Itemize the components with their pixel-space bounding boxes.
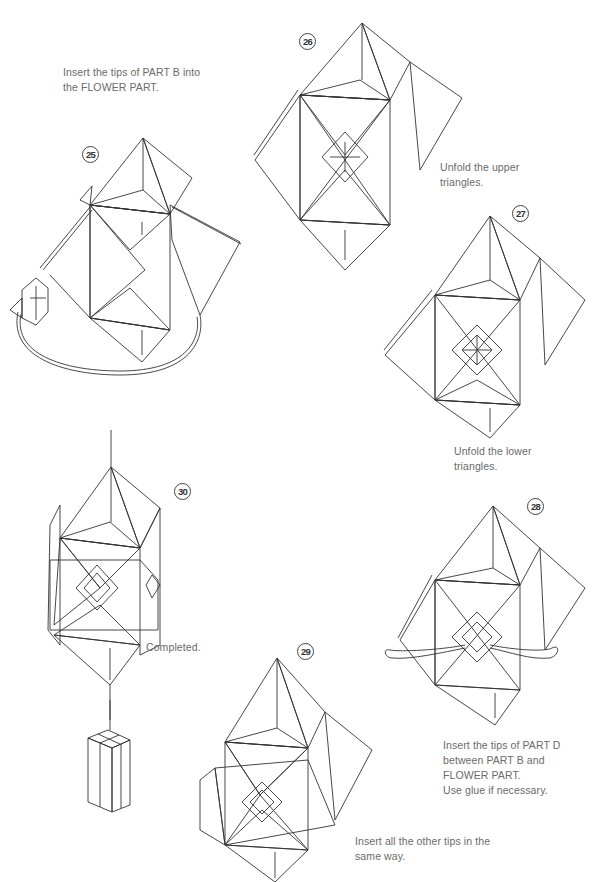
caption-line: Insert the tips of PART B into (63, 65, 200, 80)
step-28-diagram (380, 500, 593, 730)
caption-line: Unfold the upper (440, 160, 519, 175)
caption-line: Completed. (146, 640, 201, 655)
step-30-caption: Completed. (146, 640, 201, 655)
caption-line: Unfold the lower (454, 444, 531, 459)
caption-line: same way. (355, 849, 490, 864)
caption-line: triangles. (454, 459, 531, 474)
step-26-caption: Unfold the upper triangles. (440, 160, 519, 190)
step-29-diagram (200, 650, 380, 882)
step-25-diagram (0, 130, 260, 410)
caption-line: Use glue if necessary. (443, 783, 560, 798)
caption-line: triangles. (440, 175, 519, 190)
caption-line: Insert all the other tips in the (355, 834, 490, 849)
step-27-diagram (380, 210, 593, 440)
caption-line: FLOWER PART. (443, 768, 560, 783)
caption-line: Insert the tips of PART D (443, 738, 560, 753)
step-25-caption: Insert the tips of PART B into the FLOWE… (63, 65, 200, 95)
weight-block-diagram (80, 700, 140, 820)
step-28-caption: Insert the tips of PART D between PART B… (443, 738, 560, 798)
caption-line: between PART B and (443, 753, 560, 768)
step-27-caption: Unfold the lower triangles. (454, 444, 531, 474)
step-30-number: 30 (174, 483, 191, 500)
caption-line: the FLOWER PART. (63, 80, 200, 95)
step-29-caption: Insert all the other tips in the same wa… (355, 834, 490, 864)
